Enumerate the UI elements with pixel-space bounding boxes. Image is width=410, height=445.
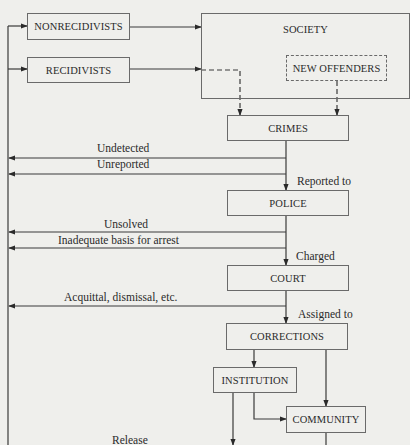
node-label: NONRECIDIVISTS <box>34 21 122 32</box>
edge-label-unsolved: Unsolved <box>104 219 148 231</box>
edge-label-charged: Charged <box>296 251 335 263</box>
node-nonrecidivists: NONRECIDIVISTS <box>27 13 130 40</box>
edge-label-release: Release <box>112 435 148 445</box>
node-label: SOCIETY <box>283 24 328 35</box>
edge-label-reported-to: Reported to <box>297 176 351 188</box>
node-institution: INSTITUTION <box>213 367 297 393</box>
node-recidivists: RECIDIVISTS <box>27 57 130 83</box>
node-label: NEW OFFENDERS <box>293 63 381 74</box>
node-police: POLICE <box>227 190 349 216</box>
edge-label-unreported: Unreported <box>97 159 149 171</box>
node-label: COMMUNITY <box>293 414 360 425</box>
node-community: COMMUNITY <box>286 406 366 433</box>
node-label: CORRECTIONS <box>250 331 324 342</box>
edge-label-inadequate-basis: Inadequate basis for arrest <box>58 235 179 247</box>
edge-label-undetected: Undetected <box>97 143 149 155</box>
edge-label-assigned-to: Assigned to <box>298 309 353 321</box>
node-crimes: CRIMES <box>227 115 349 141</box>
node-label: CRIMES <box>268 123 308 134</box>
node-corrections: CORRECTIONS <box>226 323 348 350</box>
node-court: COURT <box>227 265 349 291</box>
node-label: INSTITUTION <box>221 375 288 386</box>
node-label: RECIDIVISTS <box>46 65 111 76</box>
arrow-institution-to-community <box>254 392 286 419</box>
edge-label-acquittal: Acquittal, dismissal, etc. <box>64 292 177 304</box>
node-label: COURT <box>270 273 305 284</box>
node-label: POLICE <box>269 198 306 209</box>
node-new-offenders: NEW OFFENDERS <box>286 55 387 81</box>
criminal-justice-flowchart: NONRECIDIVISTS RECIDIVISTS SOCIETY NEW O… <box>0 0 410 445</box>
